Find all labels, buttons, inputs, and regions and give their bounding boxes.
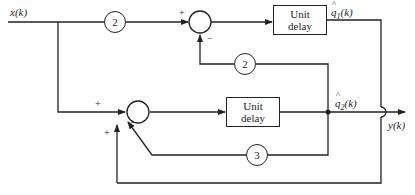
block-label-line1: Unit <box>227 100 279 112</box>
state-q1-label: q1(k) <box>331 7 353 21</box>
output-label: y(k) <box>388 120 405 131</box>
gain-feedback-3: 3 <box>246 144 268 166</box>
block-label-line2: delay <box>274 20 326 32</box>
sign-bottom-plus-left: + <box>95 99 101 109</box>
state-arg: (k) <box>345 97 357 109</box>
gain-value: 2 <box>112 16 118 28</box>
gain-value: 3 <box>254 149 260 161</box>
state-arg: (k) <box>341 6 353 18</box>
sign-top-minus: − <box>207 34 213 44</box>
summing-junction-top <box>189 11 211 33</box>
input-label: x(k) <box>10 7 27 18</box>
sign-bottom-minus: − <box>130 118 136 128</box>
block-label-line1: Unit <box>274 8 326 20</box>
gain-value: 2 <box>242 58 248 70</box>
sign-bottom-plus-below: + <box>104 128 110 138</box>
unit-delay-block-2: Unit delay <box>226 97 280 127</box>
gain-input-2: 2 <box>104 11 126 33</box>
unit-delay-block-1: Unit delay <box>273 5 327 35</box>
state-q2-label: q2(k) <box>335 98 357 112</box>
sign-top-plus: + <box>179 8 185 18</box>
state-symbol: q <box>331 7 337 18</box>
block-label-line2: delay <box>227 112 279 124</box>
state-symbol: q <box>335 98 341 109</box>
gain-feedback-2: 2 <box>234 53 256 75</box>
